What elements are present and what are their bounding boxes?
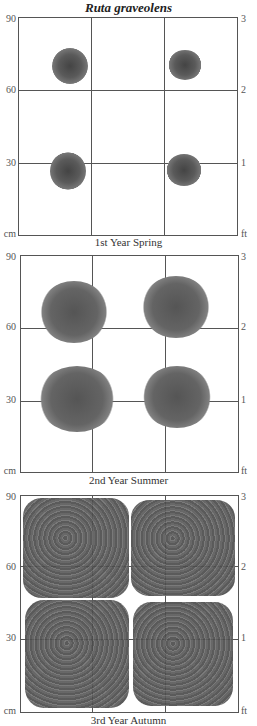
tick-left-60: 60 xyxy=(0,322,16,332)
tick-right-3: 3 xyxy=(241,252,246,262)
tick-right-1: 1 xyxy=(241,158,246,168)
tick-left-30: 30 xyxy=(0,633,16,643)
tick-left-60: 60 xyxy=(0,85,16,95)
plant-icon xyxy=(23,498,129,598)
tick-right-3: 3 xyxy=(241,492,246,502)
tick-right-3: 3 xyxy=(241,14,246,24)
grid-panel xyxy=(20,495,239,713)
plant-icon xyxy=(141,276,211,338)
grid-panel xyxy=(20,255,239,473)
panel-caption: 1st Year Spring xyxy=(0,236,257,248)
tick-right-2: 2 xyxy=(241,322,246,332)
panel-caption: 2nd Year Summer xyxy=(0,474,257,486)
plant-icon xyxy=(39,281,109,343)
diagram-title: Ruta graveolens xyxy=(0,0,257,16)
tick-right-1: 1 xyxy=(241,395,246,405)
plant-icon xyxy=(37,366,117,432)
plant-icon xyxy=(166,154,202,186)
tick-left-90: 90 xyxy=(0,492,16,502)
grid-line xyxy=(91,18,92,235)
plant-icon xyxy=(168,50,202,80)
grid-line xyxy=(164,18,165,235)
plant-icon xyxy=(25,600,129,708)
tick-right-2: 2 xyxy=(241,562,246,572)
panel-caption: 3rd Year Autumn xyxy=(0,714,257,726)
tick-left-90: 90 xyxy=(0,14,16,24)
plant-icon xyxy=(141,366,213,428)
grid-panel xyxy=(18,17,238,236)
tick-right-1: 1 xyxy=(241,633,246,643)
plant-icon xyxy=(131,500,235,596)
plant-icon xyxy=(133,602,233,706)
tick-right-2: 2 xyxy=(241,85,246,95)
plant-icon xyxy=(50,152,86,190)
tick-left-30: 30 xyxy=(0,395,16,405)
tick-left-90: 90 xyxy=(0,252,16,262)
grid-line xyxy=(19,90,237,91)
plant-icon xyxy=(52,48,88,84)
tick-left-30: 30 xyxy=(0,158,16,168)
tick-left-60: 60 xyxy=(0,562,16,572)
